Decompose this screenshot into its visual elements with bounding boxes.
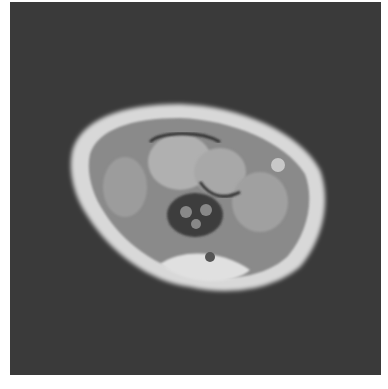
mri-wrist-scan	[10, 2, 381, 375]
mri-image-panel	[10, 2, 381, 375]
